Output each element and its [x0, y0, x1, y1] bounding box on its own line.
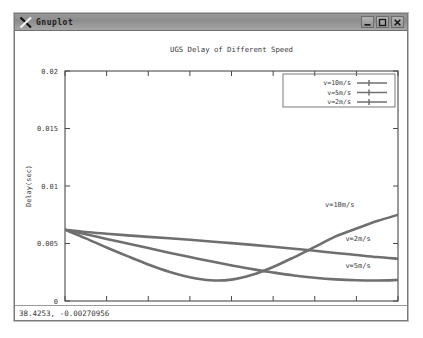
cursor-coordinates: 38.4253, -0.00270956 [19, 309, 109, 318]
gnuplot-chart: UGS Delay of Different Speed00.0050.010.… [15, 31, 407, 305]
y-tick-label: 0 [54, 298, 58, 305]
window-controls [361, 16, 404, 28]
screenshot-root: Gnuplot UGS Delay of Different Speed00.0… [0, 0, 423, 338]
maximize-icon[interactable] [376, 16, 389, 28]
y-tick-label: 0.02 [41, 68, 58, 76]
window-title: Gnuplot [36, 18, 73, 27]
gnuplot-x-logo-icon [19, 16, 33, 29]
legend-label-v=2m/s: v=2m/s [327, 98, 351, 106]
curve-label-v=2m/s: v=2m/s [345, 235, 370, 243]
gnuplot-window: Gnuplot UGS Delay of Different Speed00.0… [14, 13, 408, 321]
chart-title: UGS Delay of Different Speed [170, 45, 293, 54]
y-tick-label: 0.005 [37, 240, 58, 248]
y-axis-label: Delay(sec) [25, 165, 33, 207]
minimize-icon[interactable] [361, 16, 374, 28]
legend-label-v=10m/s: v=10m/s [323, 79, 351, 87]
curve-label-v=5m/s: v=5m/s [345, 262, 370, 270]
curve-group [65, 215, 398, 281]
y-tick-label: 0.01 [41, 183, 58, 191]
curve-v=10m/s [65, 215, 398, 281]
close-icon[interactable] [391, 16, 404, 28]
plot-canvas[interactable]: UGS Delay of Different Speed00.0050.010.… [15, 31, 407, 305]
status-bar: 38.4253, -0.00270956 [15, 305, 407, 320]
y-tick-label: 0.015 [37, 125, 58, 133]
window-titlebar[interactable]: Gnuplot [15, 14, 407, 31]
curve-v=2m/s [65, 230, 398, 259]
curve-label-v=10m/s: v=10m/s [325, 201, 355, 209]
legend-label-v=5m/s: v=5m/s [327, 89, 351, 97]
